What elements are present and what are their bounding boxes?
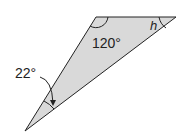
angle-label-h: h	[150, 18, 157, 33]
angle-label-22: 22°	[15, 65, 36, 81]
triangle-diagram: 120° h 22°	[0, 0, 191, 139]
angle-label-120: 120°	[92, 35, 121, 51]
